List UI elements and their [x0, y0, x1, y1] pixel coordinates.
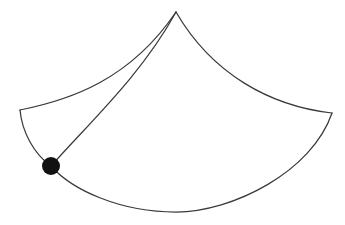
figure-canvas: [0, 0, 345, 225]
upper-left-arc-path: [20, 12, 176, 110]
chord-arc-path: [51, 12, 176, 166]
lower-right-arc-path: [51, 113, 332, 212]
marked-vertex-dot: [42, 157, 60, 175]
left-short-arc-path: [20, 110, 51, 166]
geometric-figure-svg: [0, 0, 345, 225]
upper-right-arc-path: [176, 12, 332, 113]
